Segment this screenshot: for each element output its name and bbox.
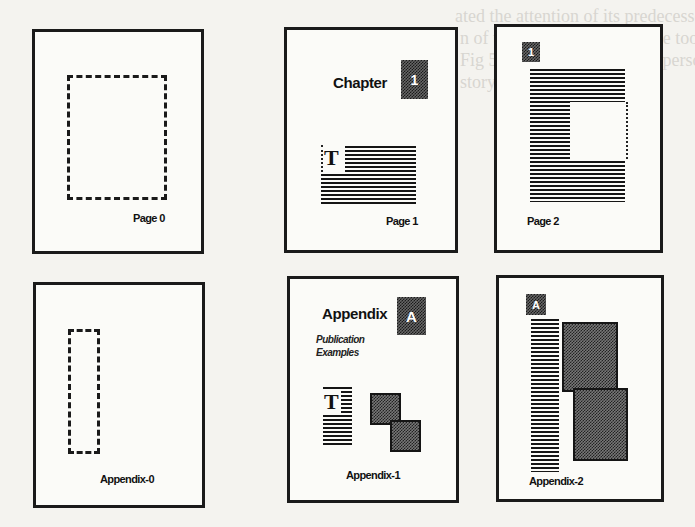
page-label: Page 0: [133, 212, 165, 224]
page-label: Page 2: [527, 215, 559, 227]
appendix-heading: Appendix: [322, 305, 387, 322]
chapter-number-badge: 1: [401, 60, 428, 99]
figure-block: [562, 322, 618, 392]
appendix-letter-badge: A: [526, 294, 546, 315]
appendix-0-thumbnail: Appendix-0: [33, 282, 205, 508]
appendix-1-thumbnail: Appendix A Publication Examples T Append…: [287, 276, 459, 503]
subtitle: Publication Examples: [316, 333, 364, 359]
subtitle-line: Publication: [316, 333, 364, 346]
page-1-thumbnail: Chapter 1 T Page 1: [284, 27, 458, 253]
page-label: Appendix-0: [100, 473, 154, 485]
page-label: Page 1: [386, 215, 418, 227]
page-label: Appendix-1: [346, 469, 400, 481]
subtitle-line: Examples: [316, 346, 364, 359]
text-area-placeholder: [68, 329, 100, 454]
figure-placeholder: [570, 102, 628, 159]
appendix-2-thumbnail: A Appendix-2: [496, 275, 664, 502]
dropcap-letter: T: [324, 391, 339, 413]
text-area-placeholder: [67, 75, 167, 200]
appendix-letter-badge: A: [397, 297, 426, 335]
figure-block: [390, 420, 421, 452]
chapter-number-badge: 1: [522, 42, 540, 62]
body-text-lines: [531, 319, 559, 472]
page-0-thumbnail: Page 0: [32, 29, 204, 254]
page-2-thumbnail: 1 Page 2: [494, 24, 663, 253]
figure-block: [573, 388, 628, 461]
dropcap-letter: T: [324, 147, 339, 169]
page-label: Appendix-2: [529, 475, 583, 487]
chapter-heading: Chapter: [333, 74, 387, 91]
